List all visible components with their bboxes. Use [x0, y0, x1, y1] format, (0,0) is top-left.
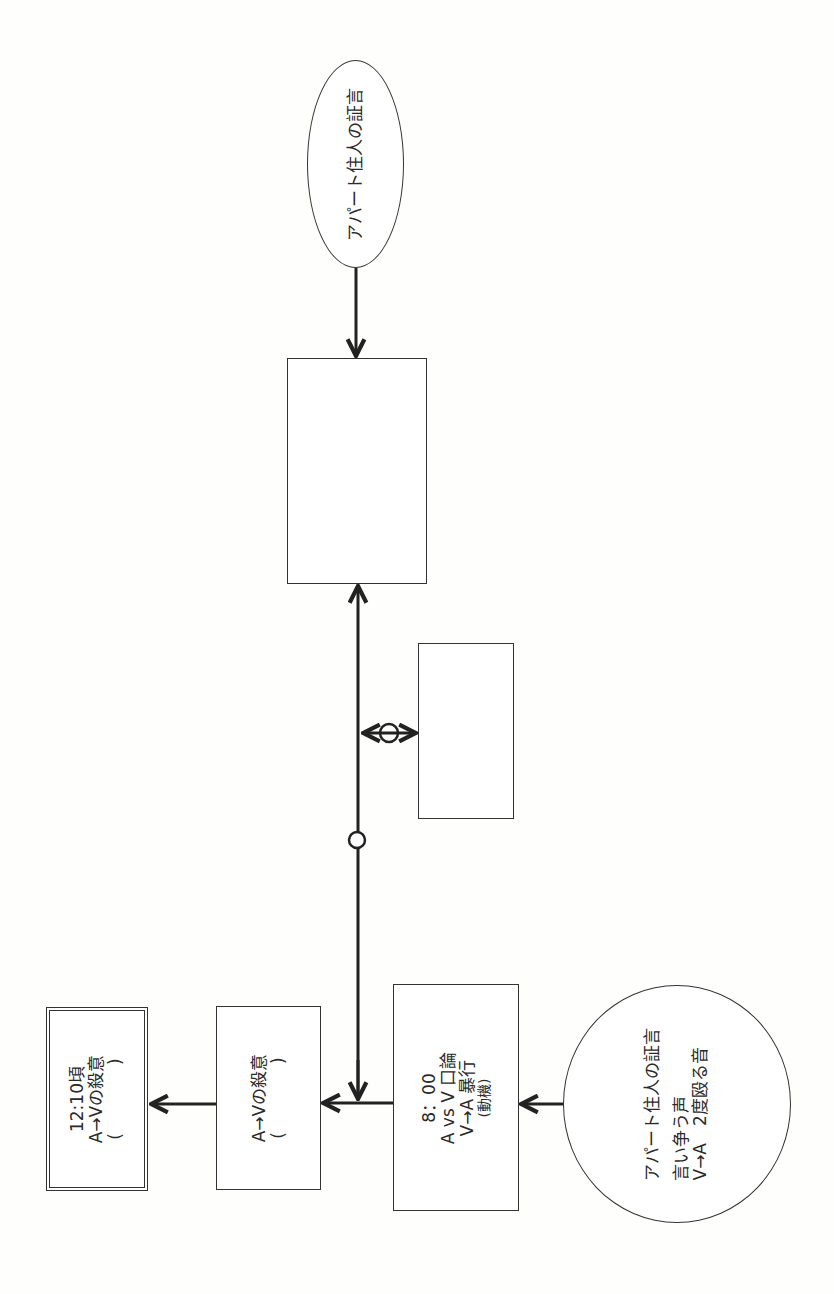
conclusion-box: 12:10頃 A→Vの殺意 ( ) — [46, 1007, 148, 1191]
bottom-testimony-text: アパート住人の証言 言い争う声 V→A 2度殴る音 — [643, 1028, 710, 1181]
spine-circle-marker — [349, 832, 365, 848]
top-testimony-text: アパート住人の証言 — [346, 88, 365, 241]
event-8-text: 8：00 A vs V 口論 V→A 暴行 (動機) — [420, 1051, 493, 1143]
intent-text: A→Vの殺意 ( ) — [249, 1054, 287, 1143]
intent-box: A→Vの殺意 ( ) — [216, 1006, 321, 1190]
event-8-box: 8：00 A vs V 口論 V→A 暴行 (動機) — [393, 984, 519, 1211]
top-testimony-ellipse: アパート住人の証言 — [307, 60, 404, 268]
conclusion-text: 12:10頃 A→Vの殺意 ( ) — [68, 1055, 125, 1144]
bottom-testimony-circle: アパート住人の証言 言い争う声 V→A 2度殴る音 — [563, 985, 791, 1223]
main-blank-box[interactable] — [287, 358, 427, 584]
side-blank-box[interactable] — [418, 643, 514, 819]
